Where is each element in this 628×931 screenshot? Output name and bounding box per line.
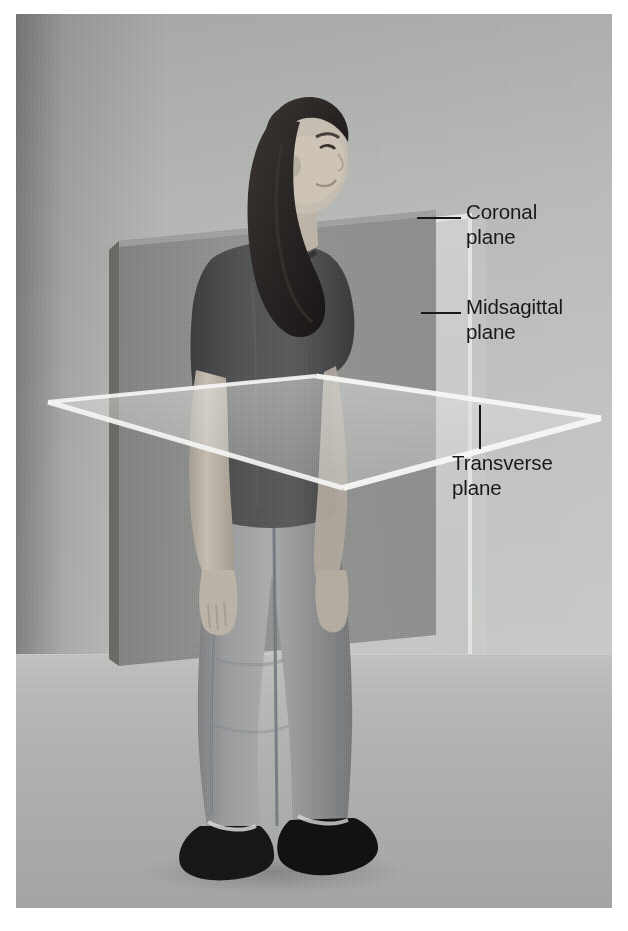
coronal-plane-label: Coronal plane	[466, 200, 537, 249]
coronal-plane-leader-line	[417, 217, 461, 219]
midsagittal-plane-leader-line	[421, 312, 461, 314]
transverse-plane-label: Transverse plane	[452, 451, 553, 500]
midsagittal-plane-label: Midsagittal plane	[466, 295, 563, 344]
transverse-plane-leader-line	[479, 405, 481, 449]
label-layer: Coronal plane Midsagittal plane Transver…	[16, 14, 612, 908]
anatomical-planes-photo: Coronal plane Midsagittal plane Transver…	[16, 14, 612, 908]
figure-frame: Coronal plane Midsagittal plane Transver…	[0, 0, 628, 931]
